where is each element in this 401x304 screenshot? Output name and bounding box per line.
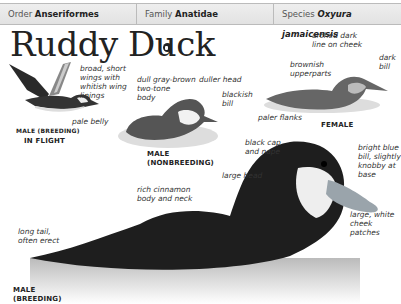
label-dark-bill: dark bill (379, 53, 396, 71)
family-cell: Family Anatidae (137, 4, 274, 24)
label-arched-cheek-line: arched dark line on cheek (312, 31, 362, 49)
page-title: Ruddy Duck (10, 24, 215, 64)
caption-male-breeding: MALE (BREEDING) (13, 286, 62, 304)
label-white-cheek: large, white cheek patches (350, 210, 394, 237)
label-cinnamon-body: rich cinnamon body and neck (137, 185, 192, 203)
species-cell: Species Oxyura jamaicensis (274, 4, 401, 24)
taxonomy-header: Order Anseriformes Family Anatidae Speci… (0, 3, 401, 25)
label-pale-belly: pale belly (72, 117, 108, 126)
label-duller-head: duller head (199, 75, 242, 84)
caption-female: FEMALE (321, 121, 353, 130)
caption-male-breeding-flight: MALE (BREEDING) (16, 126, 80, 135)
label-two-tone-body: dull gray-brown two-tone body (137, 75, 196, 102)
label-large-head: large head (222, 171, 262, 180)
label-paler-flanks: paler flanks (258, 113, 302, 122)
order-cell: Order Anseriformes (0, 4, 137, 24)
order-value: Anseriformes (35, 9, 99, 19)
male-breeding-illustration (30, 138, 401, 304)
label-blackish-bill: blackish bill (222, 90, 253, 108)
label-brownish-upperparts: brownish upperparts (290, 60, 331, 78)
speaker-icon[interactable] (163, 43, 172, 52)
label-blue-bill: bright blue bill, slightly knobby at bas… (358, 143, 401, 179)
family-value: Anatidae (175, 9, 218, 19)
label-black-cap: black cap and nape (245, 138, 281, 156)
label-long-tail: long tail, often erect (18, 227, 59, 245)
